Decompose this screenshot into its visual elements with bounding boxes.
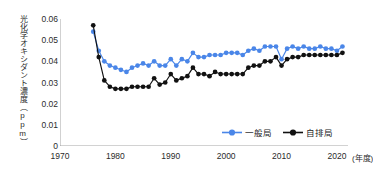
data-point	[135, 84, 140, 89]
data-point	[296, 55, 301, 60]
data-point	[130, 65, 135, 70]
data-point	[207, 74, 212, 79]
data-point	[274, 44, 279, 49]
data-point	[102, 59, 107, 64]
data-point	[130, 84, 135, 89]
data-point	[196, 72, 201, 77]
x-tick-label: 2020	[327, 151, 346, 161]
data-point	[196, 55, 201, 60]
data-point	[235, 72, 240, 77]
data-point	[279, 63, 284, 68]
data-point	[329, 46, 334, 51]
data-point	[301, 44, 306, 49]
data-point	[96, 55, 101, 60]
data-point	[180, 57, 185, 62]
data-point	[124, 70, 129, 75]
data-point	[335, 53, 340, 58]
legend-swatch-line-marker	[283, 128, 303, 137]
data-point	[329, 53, 334, 58]
data-point	[207, 53, 212, 58]
data-point	[157, 82, 162, 87]
x-tick-label: 2010	[272, 151, 291, 161]
data-point	[240, 53, 245, 58]
data-point	[301, 53, 306, 58]
data-point	[263, 44, 268, 49]
data-point	[141, 84, 146, 89]
data-series-roadside-station	[91, 23, 345, 91]
y-tick-label: 0	[53, 141, 58, 151]
legend-swatch-line-marker	[222, 128, 242, 137]
data-point	[252, 63, 257, 68]
data-point	[191, 65, 196, 70]
data-point	[218, 72, 223, 77]
data-point	[296, 46, 301, 51]
data-point	[235, 51, 240, 56]
y-tick-label: 0.02	[41, 99, 58, 109]
data-series-general-station	[91, 29, 345, 74]
data-point	[191, 51, 196, 56]
data-point	[224, 51, 229, 56]
data-point	[152, 59, 157, 64]
data-point	[124, 87, 129, 92]
data-point	[119, 87, 124, 92]
data-point	[119, 67, 124, 72]
data-point	[108, 63, 113, 68]
data-point	[290, 55, 295, 60]
data-point	[340, 51, 345, 56]
data-point	[163, 63, 168, 68]
data-point	[307, 46, 312, 51]
data-point	[312, 46, 317, 51]
data-point	[213, 70, 218, 75]
data-point	[146, 63, 151, 68]
x-tick-label: 1990	[161, 151, 180, 161]
data-point	[168, 57, 173, 62]
data-point	[102, 78, 107, 83]
data-point	[91, 23, 96, 28]
data-point	[141, 61, 146, 66]
data-point	[240, 72, 245, 77]
data-point	[174, 63, 179, 68]
data-point	[285, 46, 290, 51]
data-point	[218, 53, 223, 58]
data-point	[318, 44, 323, 49]
data-point	[257, 48, 262, 53]
data-point	[246, 48, 251, 53]
data-point	[213, 53, 218, 58]
data-point	[135, 63, 140, 68]
data-point	[152, 76, 157, 81]
data-point	[246, 65, 251, 70]
data-point	[274, 55, 279, 60]
y-tick-label: 0.04	[41, 56, 58, 66]
legend-item-general-station: 一般局	[222, 126, 272, 138]
data-point	[279, 57, 284, 62]
data-point	[185, 59, 190, 64]
data-point	[202, 55, 207, 60]
data-point	[252, 46, 257, 51]
legend-label: 一般局	[245, 126, 272, 138]
data-point	[290, 44, 295, 49]
data-point	[174, 78, 179, 83]
data-point	[113, 87, 118, 92]
data-point	[168, 72, 173, 77]
legend-label: 自排局	[306, 126, 333, 138]
data-point	[163, 80, 168, 85]
data-point	[146, 84, 151, 89]
data-point	[285, 57, 290, 62]
data-point	[229, 51, 234, 56]
data-point	[180, 76, 185, 81]
data-point	[202, 72, 207, 77]
data-point	[324, 46, 329, 51]
data-point	[224, 72, 229, 77]
data-point	[340, 44, 345, 49]
y-tick-label: 0.06	[41, 14, 58, 24]
x-tick-label: 1970	[51, 151, 70, 161]
data-point	[312, 53, 317, 58]
data-point	[185, 74, 190, 79]
data-point	[157, 63, 162, 68]
chart-legend: 一般局 自排局	[222, 126, 333, 138]
y-tick-label: 0.03	[41, 78, 58, 88]
data-point	[335, 48, 340, 53]
y-tick-label: 0.05	[41, 35, 58, 45]
data-point	[113, 65, 118, 70]
data-point	[257, 63, 262, 68]
